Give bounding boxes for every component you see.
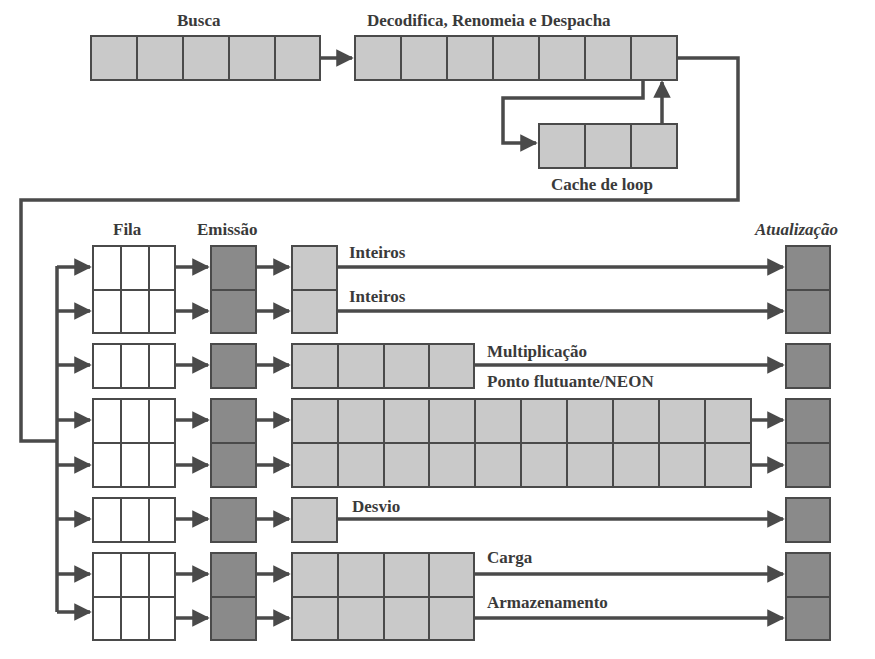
writeback-label: Atualização xyxy=(755,221,838,238)
queue-cell xyxy=(148,289,176,334)
issue-cell xyxy=(210,552,257,598)
exec-integer-2 xyxy=(291,289,338,334)
queue-cell xyxy=(148,596,176,641)
queue-cell xyxy=(148,398,176,444)
exec-load-cell xyxy=(428,552,475,598)
queue-cell xyxy=(120,497,150,543)
queue-cell xyxy=(92,442,122,488)
exec-store-cell xyxy=(428,596,475,641)
loop-cache-cell xyxy=(538,123,586,169)
decode-cell xyxy=(584,35,632,81)
exec-fp-cell xyxy=(428,398,476,444)
issue-cell xyxy=(210,497,257,543)
exec-fp-cell xyxy=(337,442,385,488)
exec-fp-cell xyxy=(383,398,430,444)
exec-fp-cell xyxy=(566,398,614,444)
queue-cell xyxy=(120,398,150,444)
decode-cell xyxy=(630,35,678,81)
decode-cell xyxy=(492,35,540,81)
fetch-cell xyxy=(228,35,276,81)
queue-cell xyxy=(120,596,150,641)
writeback-cell xyxy=(785,497,831,543)
queue-cell xyxy=(92,245,122,291)
exec-fp-cell xyxy=(474,398,522,444)
exec-fp-cell xyxy=(612,442,660,488)
writeback-cell xyxy=(785,398,831,444)
issue-cell xyxy=(210,245,257,291)
issue-label: Emissão xyxy=(197,221,257,238)
decode-label: Decodifica, Renomeia e Despacha xyxy=(367,12,611,29)
exec-multiply-cell xyxy=(383,343,430,389)
queue-cell xyxy=(148,343,176,389)
exec-fp-cell xyxy=(383,442,430,488)
issue-cell xyxy=(210,398,257,444)
queue-cell xyxy=(92,552,122,598)
unit-label-integer-1: Inteiros xyxy=(349,244,405,261)
queue-cell xyxy=(148,552,176,598)
exec-store-cell xyxy=(291,596,339,641)
queue-cell xyxy=(120,343,150,389)
queue-label: Fila xyxy=(113,221,141,238)
unit-label-integer-2: Inteiros xyxy=(349,288,405,305)
queue-cell xyxy=(92,398,122,444)
queue-cell xyxy=(92,596,122,641)
unit-label-store: Armazenamento xyxy=(487,594,608,611)
exec-integer-1 xyxy=(291,245,338,291)
issue-cell xyxy=(210,442,257,488)
exec-fp-cell xyxy=(337,398,385,444)
exec-branch xyxy=(291,497,338,543)
unit-label-branch: Desvio xyxy=(352,498,400,515)
writeback-cell xyxy=(785,245,831,291)
writeback-cell xyxy=(785,289,831,334)
issue-cell xyxy=(210,596,257,641)
exec-fp-cell xyxy=(291,442,339,488)
exec-fp-cell xyxy=(658,398,706,444)
fetch-label: Busca xyxy=(177,12,220,29)
loop-cache-cell xyxy=(584,123,632,169)
writeback-cell xyxy=(785,596,831,641)
exec-fp-cell xyxy=(520,398,568,444)
exec-load-cell xyxy=(337,552,385,598)
queue-cell xyxy=(148,245,176,291)
exec-fp-cell xyxy=(612,398,660,444)
fetch-cell xyxy=(274,35,321,81)
queue-cell xyxy=(148,497,176,543)
exec-multiply-cell xyxy=(291,343,339,389)
exec-fp-cell xyxy=(428,442,476,488)
exec-fp-cell xyxy=(566,442,614,488)
fetch-cell xyxy=(182,35,230,81)
unit-label-fp-neon: Ponto flutuante/NEON xyxy=(487,373,654,390)
writeback-cell xyxy=(785,442,831,488)
queue-cell xyxy=(92,343,122,389)
decode-cell xyxy=(354,35,402,81)
exec-load-cell xyxy=(291,552,339,598)
loop-cache-label: Cache de loop xyxy=(551,176,653,193)
exec-multiply-cell xyxy=(428,343,475,389)
queue-cell xyxy=(120,442,150,488)
issue-cell xyxy=(210,289,257,334)
queue-cell xyxy=(92,497,122,543)
queue-cell xyxy=(120,245,150,291)
exec-store-cell xyxy=(383,596,430,641)
decode-cell xyxy=(400,35,448,81)
queue-cell xyxy=(148,442,176,488)
exec-store-cell xyxy=(337,596,385,641)
queue-cell xyxy=(120,552,150,598)
exec-fp-cell xyxy=(704,398,752,444)
decode-cell xyxy=(538,35,586,81)
fetch-cell xyxy=(90,35,138,81)
fetch-cell xyxy=(136,35,184,81)
exec-multiply-cell xyxy=(337,343,385,389)
writeback-cell xyxy=(785,552,831,598)
queue-cell xyxy=(92,289,122,334)
unit-label-multiply: Multiplicação xyxy=(487,343,587,360)
loop-cache-cell xyxy=(630,123,678,169)
exec-fp-cell xyxy=(704,442,752,488)
writeback-cell xyxy=(785,343,831,389)
decode-cell xyxy=(446,35,494,81)
exec-fp-cell xyxy=(474,442,522,488)
exec-load-cell xyxy=(383,552,430,598)
exec-fp-cell xyxy=(658,442,706,488)
exec-fp-cell xyxy=(520,442,568,488)
issue-cell xyxy=(210,343,257,389)
